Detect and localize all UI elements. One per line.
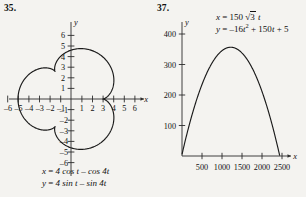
ytick-label: –2	[59, 116, 68, 125]
xtick-label: 2	[90, 104, 94, 113]
ytick-label: 3	[61, 63, 65, 72]
xtick-label: 2500	[274, 163, 290, 172]
y-tick-labels: 100 200 300 400	[164, 30, 176, 131]
x-axis-label: x	[143, 95, 148, 104]
ytick-label: –1	[59, 106, 68, 115]
x-tick-labels: 500 1000 1500 2000 2500	[196, 163, 290, 172]
y-axis-label: y	[184, 18, 189, 27]
xtick-label: 5	[122, 104, 126, 113]
xtick-label: 1500	[234, 163, 250, 172]
equation-y-lhs: y	[42, 178, 46, 188]
ytick-label: 1	[61, 84, 65, 93]
y-axis-label: y	[73, 18, 78, 27]
ytick-label: –5	[59, 148, 68, 157]
ytick-label: 100	[164, 122, 176, 131]
figure-37: 37. 10	[153, 0, 306, 197]
xtick-label: 6	[133, 104, 137, 113]
figure-35: 35.	[0, 0, 153, 197]
xtick-label: 2000	[254, 163, 270, 172]
xtick-label: 500	[196, 163, 208, 172]
ytick-label: 300	[164, 61, 176, 70]
equation-y-lhs: y	[216, 24, 220, 34]
x-axis-arrow	[288, 154, 292, 157]
equations-35: x = 4 cos t – cos 4t y = 4 sin t – sin 4…	[42, 166, 109, 189]
textbook-answer-figures: 35.	[0, 0, 306, 197]
ytick-label: 200	[164, 91, 176, 100]
sqrt-icon: √3	[245, 11, 255, 22]
equation-x-lhs: x	[42, 166, 46, 176]
ytick-label: 400	[164, 30, 176, 39]
equation-y-rhs: 4 sin t – sin 4t	[56, 178, 107, 188]
equation-x-rhs: 4 cos t – cos 4t	[56, 166, 110, 176]
x-tick-labels: –6 –5 –4 –3 –2 –1 1 2 3 4 5 6	[3, 104, 137, 113]
equation-x-lhs: x	[216, 12, 220, 22]
equation-y-37: y = –16t2 + 150t + 5	[216, 24, 288, 36]
equation-y-35: y = 4 sin t – sin 4t	[42, 178, 109, 190]
ytick-label: 5	[61, 42, 65, 51]
xtick-label: 1000	[214, 163, 230, 172]
ytick-label: –3	[59, 127, 68, 136]
xtick-label: 3	[101, 104, 105, 113]
x-axis-label: x	[292, 152, 297, 161]
xtick-label: –6	[3, 104, 12, 113]
equation-x-37: x = 150 √3 t	[216, 12, 288, 24]
xtick-label: 1	[80, 104, 84, 113]
xtick-label: –4	[24, 104, 33, 113]
xtick-label: –3	[35, 104, 44, 113]
ytick-label: 6	[61, 31, 65, 40]
equation-x-35: x = 4 cos t – cos 4t	[42, 166, 109, 178]
axes-group	[182, 22, 291, 158]
xtick-label: –2	[45, 104, 54, 113]
parabola-curve	[182, 47, 280, 155]
equations-37: x = 150 √3 t y = –16t2 + 150t + 5	[216, 12, 288, 35]
ytick-label: 2	[61, 74, 65, 83]
